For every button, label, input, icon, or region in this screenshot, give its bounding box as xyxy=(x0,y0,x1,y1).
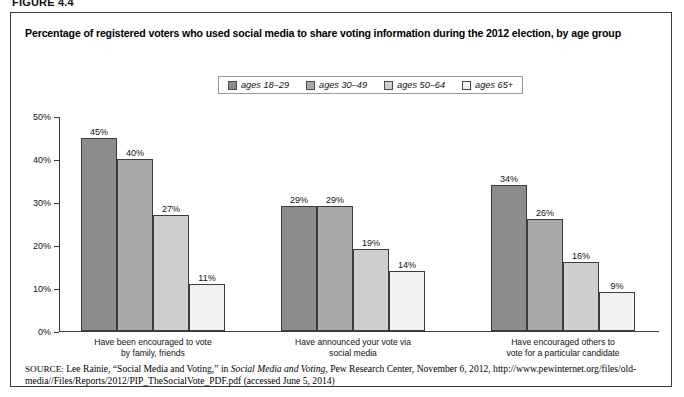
source-note: SOURCE: Lee Rainie, “Social Media and Vo… xyxy=(25,363,659,387)
legend-item-1[interactable]: ages 30–49 xyxy=(306,80,367,90)
source-text-part1: Lee Rainie, “Social Media and Voting,” i… xyxy=(64,363,231,374)
bar[interactable]: 16% xyxy=(563,262,599,331)
bar-value-label: 45% xyxy=(90,127,108,137)
bar-value-label: 34% xyxy=(500,174,518,184)
bar-value-label: 9% xyxy=(610,281,623,291)
figure-number: FIGURE 4.4 xyxy=(12,0,74,8)
legend-swatch-icon xyxy=(384,81,393,90)
bar-value-label: 11% xyxy=(198,273,215,283)
bar[interactable]: 34% xyxy=(491,185,527,331)
bar-value-label: 19% xyxy=(362,238,380,248)
source-prefix: SOURCE: xyxy=(25,364,64,374)
chart-plot-area: 0%10%20%30%40%50%45%40%27%11%Have been e… xyxy=(59,117,659,332)
figure-title: Percentage of registered voters who used… xyxy=(25,27,657,40)
bar[interactable]: 9% xyxy=(599,292,635,331)
figure-box: Percentage of registered voters who used… xyxy=(10,12,672,387)
y-axis-tick-group: 50% xyxy=(59,117,60,118)
bar-group-1: 29%29%19%14%Have announced your vote via… xyxy=(281,117,425,331)
x-axis-line xyxy=(59,331,659,332)
y-axis-tick-mark xyxy=(54,246,59,247)
y-axis-tick-label: 20% xyxy=(33,241,51,251)
bar[interactable]: 40% xyxy=(117,159,153,331)
bar[interactable]: 29% xyxy=(281,206,317,331)
bar-group-bars: 45%40%27%11% xyxy=(81,117,225,331)
y-axis-tick-mark xyxy=(54,332,59,333)
y-axis-tick-group: 0% xyxy=(59,332,60,333)
bar-value-label: 40% xyxy=(126,148,144,158)
legend-label: ages 65+ xyxy=(475,80,513,90)
y-axis-tick-mark xyxy=(54,289,59,290)
bar[interactable]: 11% xyxy=(189,284,225,331)
y-axis-tick-group: 40% xyxy=(59,160,60,161)
y-axis-tick-label: 0% xyxy=(38,327,51,337)
y-axis-tick-label: 50% xyxy=(33,112,51,122)
bar-value-label: 27% xyxy=(162,204,180,214)
bar-value-label: 16% xyxy=(572,251,590,261)
bar-value-label: 29% xyxy=(326,195,344,205)
y-axis-tick-label: 10% xyxy=(33,284,51,294)
chart-legend: ages 18–29ages 30–49ages 50–64ages 65+ xyxy=(218,76,523,94)
bar-group-bars: 29%29%19%14% xyxy=(281,117,425,331)
legend-label: ages 30–49 xyxy=(319,80,367,90)
x-axis-category-label: Have encouraged others to vote for a par… xyxy=(461,337,665,358)
bar[interactable]: 14% xyxy=(389,271,425,331)
legend-swatch-icon xyxy=(306,81,315,90)
y-axis-tick-group: 10% xyxy=(59,289,60,290)
y-axis-tick-label: 30% xyxy=(33,198,51,208)
y-axis-tick-mark xyxy=(54,160,59,161)
y-axis-tick-group: 20% xyxy=(59,246,60,247)
y-axis-tick-label: 40% xyxy=(33,155,51,165)
bar-value-label: 26% xyxy=(536,208,554,218)
legend-item-2[interactable]: ages 50–64 xyxy=(384,80,445,90)
bar[interactable]: 45% xyxy=(81,138,117,332)
legend-item-0[interactable]: ages 18–29 xyxy=(228,80,289,90)
bar[interactable]: 27% xyxy=(153,215,189,331)
legend-swatch-icon xyxy=(228,81,237,90)
legend-label: ages 50–64 xyxy=(397,80,445,90)
y-axis-line xyxy=(59,117,60,332)
bar-value-label: 29% xyxy=(290,195,308,205)
legend-item-3[interactable]: ages 65+ xyxy=(462,80,513,90)
x-axis-category-label: Have been encouraged to vote by family, … xyxy=(51,337,255,358)
legend-label: ages 18–29 xyxy=(241,80,289,90)
bar[interactable]: 19% xyxy=(353,249,389,331)
bar[interactable]: 29% xyxy=(317,206,353,331)
legend-swatch-icon xyxy=(462,81,471,90)
bar-group-2: 34%26%16%9%Have encouraged others to vot… xyxy=(491,117,635,331)
bar-group-0: 45%40%27%11%Have been encouraged to vote… xyxy=(81,117,225,331)
bar-group-bars: 34%26%16%9% xyxy=(491,117,635,331)
y-axis-tick-mark xyxy=(54,203,59,204)
source-publication-title: Social Media and Voting xyxy=(231,363,326,374)
y-axis-tick-group: 30% xyxy=(59,203,60,204)
x-axis-category-label: Have announced your vote via social medi… xyxy=(251,337,455,358)
y-axis-tick-mark xyxy=(54,117,59,118)
bar-value-label: 14% xyxy=(398,260,416,270)
bar[interactable]: 26% xyxy=(527,219,563,331)
